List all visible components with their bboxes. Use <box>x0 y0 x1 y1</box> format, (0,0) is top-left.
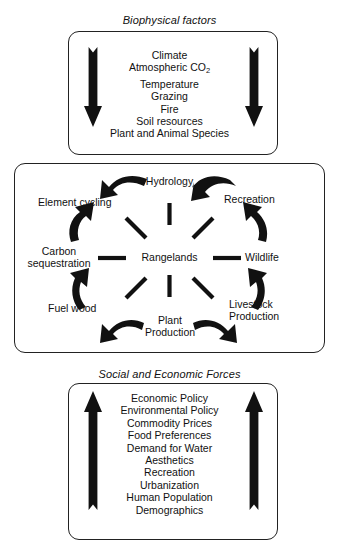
social-economic-forces-list: Economic Policy Environmental Policy Com… <box>0 392 339 516</box>
social-item-5: Aesthetics <box>0 454 339 466</box>
social-item-1: Environmental Policy <box>0 404 339 416</box>
social-item-6: Recreation <box>0 466 339 478</box>
node-label-plant-production: Plant Production <box>136 315 204 338</box>
social-economic-forces-panel: Social and Economic Forces Economic Poli… <box>0 364 339 554</box>
social-item-8: Human Population <box>0 491 339 503</box>
social-item-7: Urbanization <box>0 479 339 491</box>
co2-subscript: 2 <box>206 66 210 75</box>
node-label-recreation: Recreation <box>224 194 314 206</box>
social-item-2: Commodity Prices <box>0 417 339 429</box>
biophysical-item-3: Grazing <box>0 90 339 102</box>
node-label-livestock-line1: Livestock <box>229 299 325 311</box>
social-item-0: Economic Policy <box>0 392 339 404</box>
node-label-fuel-wood: Fuel wood <box>48 303 138 315</box>
node-label-livestock-line2: Production <box>229 311 325 323</box>
biophysical-item-0: Climate <box>0 49 339 61</box>
node-label-element-cycling: Element cycling <box>38 197 158 209</box>
node-label-plant-line2: Production <box>136 327 204 339</box>
rangelands-panel: Hydrology Recreation Wildlife Livestock … <box>14 163 325 353</box>
social-item-3: Food Preferences <box>0 429 339 441</box>
rangelands-radial-diagram: Hydrology Recreation Wildlife Livestock … <box>14 163 325 353</box>
biophysical-item-6: Plant and Animal Species <box>0 127 339 139</box>
node-label-plant-line1: Plant <box>136 315 204 327</box>
arrow-wildlife-recreation <box>243 202 267 242</box>
node-label-hydrology: Hydrology <box>14 176 325 188</box>
biophysical-factors-list: Climate Atmospheric CO2 Temperature Graz… <box>0 49 339 140</box>
biophysical-item-1: Atmospheric CO2 <box>0 61 339 77</box>
biophysical-item-2: Temperature <box>0 78 339 90</box>
social-economic-forces-title: Social and Economic Forces <box>0 368 339 380</box>
node-label-rangelands-center: Rangelands <box>14 252 325 264</box>
biophysical-factors-title: Biophysical factors <box>0 14 339 26</box>
biophysical-factors-panel: Biophysical factors Climate Atmospheric … <box>0 0 339 158</box>
biophysical-item-4: Fire <box>0 103 339 115</box>
social-item-4: Demand for Water <box>0 442 339 454</box>
social-item-9: Demographics <box>0 504 339 516</box>
node-label-livestock-production: Livestock Production <box>229 299 325 322</box>
biophysical-item-5: Soil resources <box>0 115 339 127</box>
